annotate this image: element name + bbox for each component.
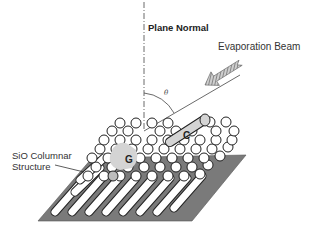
sio-label-line1: SiO Columnar [12,150,72,161]
evaporation-beam-arrow [201,56,245,92]
theta-arc [144,93,174,113]
diagram-canvas [0,0,315,234]
evaporation-beam-label: Evaporation Beam [218,41,300,52]
grain-g-label: G [125,154,133,165]
sio-leader-line [55,165,84,172]
sio-label-line2: Structure [12,161,51,172]
column-c-label: C [183,130,190,141]
theta-label: θ [164,88,168,99]
plane-normal-label: Plane Normal [148,22,209,33]
